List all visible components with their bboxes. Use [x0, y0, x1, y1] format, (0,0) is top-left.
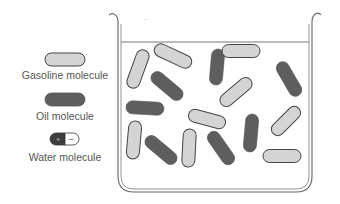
legend-label-oil: Oil molecule [36, 110, 94, 122]
oil-molecule [205, 129, 237, 168]
gasoline-molecule-icon [45, 53, 85, 66]
legend-item-water: + − Water molecule [29, 133, 102, 163]
oil-molecule [142, 133, 179, 167]
gasoline-molecule [126, 121, 142, 160]
oil-molecule [274, 59, 304, 98]
legend-label-gasoline: Gasoline molecule [22, 69, 109, 81]
gasoline-molecule [187, 108, 227, 130]
gasoline-molecule [217, 75, 254, 109]
legend-label-water: Water molecule [29, 151, 102, 163]
oil-molecule [148, 69, 185, 103]
water-plus-sign: + [56, 135, 61, 144]
water-molecule-icon: + − [50, 133, 79, 145]
gasoline-molecule [152, 42, 194, 71]
molecules-group [125, 42, 304, 168]
oil-molecule-icon [45, 93, 85, 106]
gasoline-molecule [222, 45, 260, 58]
gasoline-molecule [263, 150, 301, 163]
gasoline-molecule [182, 129, 197, 168]
legend-item-oil: Oil molecule [36, 93, 94, 122]
beaker-top-mark: ... [143, 15, 148, 21]
beaker-diagram: ... Gasoline molecule Oil molecule + − W… [0, 0, 340, 204]
gasoline-molecule [125, 48, 151, 90]
legend: Gasoline molecule Oil molecule + − Water… [22, 53, 109, 163]
water-minus-sign: − [68, 134, 73, 144]
oil-molecule [126, 101, 165, 116]
oil-molecule [243, 114, 259, 153]
legend-item-gasoline: Gasoline molecule [22, 53, 109, 81]
gasoline-molecule [269, 104, 304, 139]
